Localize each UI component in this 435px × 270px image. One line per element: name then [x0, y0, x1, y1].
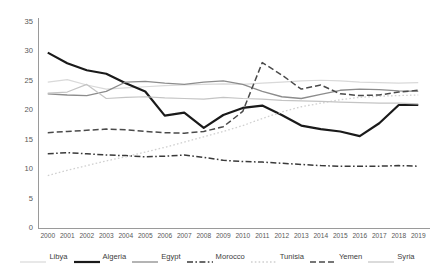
- y-axis-tick-label: 35: [7, 18, 33, 26]
- x-axis-tick-label: 2019: [409, 231, 429, 245]
- legend-item-morocco[interactable]: Morocco: [187, 252, 245, 261]
- x-axis-tick-label: 2012: [272, 231, 292, 245]
- legend-swatch-morocco: [187, 252, 213, 260]
- x-axis-tick-labels: 2000200120022003200420052006200720082009…: [38, 231, 428, 245]
- legend-swatch-algeria: [74, 252, 100, 260]
- x-axis-tick-label: 2016: [350, 231, 370, 245]
- x-axis-tick-label: 2006: [155, 231, 175, 245]
- y-axis-tick-label: 5: [7, 195, 33, 203]
- x-axis-tick-label: 2017: [370, 231, 390, 245]
- legend-item-libya[interactable]: Libya: [20, 252, 67, 261]
- legend-label: Libya: [49, 252, 67, 261]
- y-axis-tick-label: 15: [7, 136, 33, 144]
- y-axis-tick-label: 30: [7, 47, 33, 55]
- x-axis-tick-label: 2014: [311, 231, 331, 245]
- series-line-libya: [48, 80, 419, 89]
- y-axis-tick-label: 10: [7, 165, 33, 173]
- legend-swatch-syria: [368, 252, 394, 260]
- x-axis-line: [38, 228, 430, 229]
- y-axis-tick-labels: 35302520151050: [0, 0, 33, 270]
- series-lines: [38, 22, 428, 228]
- x-axis-tick-label: 2002: [77, 231, 97, 245]
- x-axis-tick-label: 2000: [38, 231, 58, 245]
- x-axis-tick-label: 2009: [214, 231, 234, 245]
- legend-label: Morocco: [216, 252, 245, 261]
- x-axis-tick-label: 2004: [116, 231, 136, 245]
- legend-item-tunisia[interactable]: Tunisia: [251, 252, 304, 261]
- series-line-morocco: [48, 153, 419, 167]
- series-line-syria: [48, 84, 419, 103]
- chart-legend: LibyaAlgeriaEgyptMoroccoTunisiaYemenSyri…: [0, 248, 435, 264]
- y-axis-tick-label: 0: [7, 224, 33, 232]
- x-axis-tick-label: 2008: [194, 231, 214, 245]
- legend-item-algeria[interactable]: Algeria: [74, 252, 127, 261]
- series-line-algeria: [48, 53, 419, 137]
- legend-item-egypt[interactable]: Egypt: [132, 252, 180, 261]
- x-axis-tick-label: 2001: [58, 231, 78, 245]
- legend-item-yemen[interactable]: Yemen: [310, 252, 362, 261]
- x-axis-tick-label: 2005: [136, 231, 156, 245]
- legend-item-syria[interactable]: Syria: [368, 252, 414, 261]
- plot-area: [38, 22, 428, 228]
- legend-label: Yemen: [339, 252, 362, 261]
- x-axis-tick-label: 2013: [292, 231, 312, 245]
- legend-label: Egypt: [161, 252, 180, 261]
- y-axis-tick-label: 25: [7, 77, 33, 85]
- legend-swatch-yemen: [310, 252, 336, 260]
- x-axis-tick-label: 2011: [253, 231, 273, 245]
- y-axis-tick-label: 20: [7, 106, 33, 114]
- legend-swatch-egypt: [132, 252, 158, 260]
- x-axis-tick-label: 2003: [97, 231, 117, 245]
- x-axis-tick-label: 2015: [331, 231, 351, 245]
- x-axis-tick-label: 2010: [233, 231, 253, 245]
- line-chart: 35302520151050 2000200120022003200420052…: [0, 0, 435, 270]
- x-axis-tick-label: 2018: [389, 231, 409, 245]
- legend-swatch-tunisia: [251, 252, 277, 260]
- legend-swatch-libya: [20, 252, 46, 260]
- legend-label: Syria: [397, 252, 414, 261]
- x-axis-tick-label: 2007: [175, 231, 195, 245]
- legend-label: Tunisia: [280, 252, 304, 261]
- legend-label: Algeria: [103, 252, 127, 261]
